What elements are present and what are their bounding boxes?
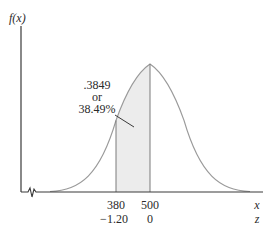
x-axis-label: x <box>254 199 259 212</box>
x-tick-500: 500 <box>141 199 159 212</box>
normal-distribution-chart <box>0 0 274 233</box>
x-tick-380: 380 <box>107 199 125 212</box>
z-tick-0: 0 <box>147 213 153 226</box>
z-tick-neg-1-20: −1.20 <box>100 213 128 226</box>
y-axis-label: f(x) <box>9 12 26 25</box>
annotation-percent: 38.49% <box>79 103 116 116</box>
z-axis-label: z <box>255 213 260 226</box>
